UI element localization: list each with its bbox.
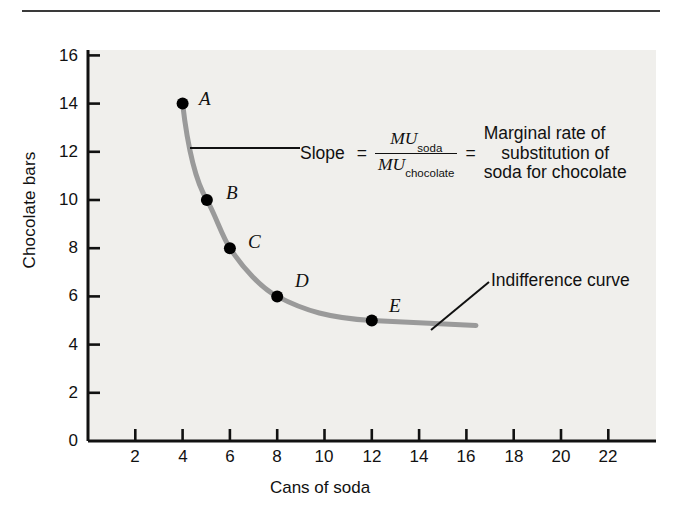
data-point-a bbox=[177, 98, 189, 110]
mu-denominator-subscript: chocolate bbox=[405, 167, 454, 179]
y-tick-label-4: 4 bbox=[48, 335, 78, 355]
x-axis-title: Cans of soda bbox=[190, 478, 450, 498]
fraction-numerator: MUsoda bbox=[387, 129, 445, 151]
mu-numerator-symbol: MU bbox=[390, 128, 417, 148]
y-tick-label-14: 14 bbox=[48, 94, 78, 114]
x-tick-label-12: 12 bbox=[357, 447, 387, 467]
slope-equals-second: = bbox=[465, 143, 475, 164]
mu-denominator-symbol: MU bbox=[378, 154, 405, 174]
fraction-denominator: MUchocolate bbox=[375, 155, 457, 177]
point-label-c: C bbox=[248, 231, 261, 253]
x-tick-label-14: 14 bbox=[404, 447, 434, 467]
x-tick-label-22: 22 bbox=[593, 447, 623, 467]
mrs-line-1: Marginal rate of bbox=[484, 124, 627, 144]
mrs-line-2: substitution of bbox=[484, 144, 627, 164]
y-tick-label-10: 10 bbox=[48, 190, 78, 210]
point-label-e: E bbox=[389, 295, 401, 317]
data-point-b bbox=[201, 194, 213, 206]
y-axis-title: Chocolate bars bbox=[20, 120, 40, 300]
slope-equals-first: = bbox=[357, 143, 367, 164]
point-label-a: A bbox=[199, 88, 211, 110]
y-tick-label-12: 12 bbox=[48, 142, 78, 162]
x-tick-label-16: 16 bbox=[451, 447, 481, 467]
plot-svg bbox=[0, 0, 694, 519]
x-axis-ticks bbox=[135, 429, 608, 441]
indifference-curve-label: Indifference curve bbox=[491, 270, 630, 291]
x-tick-label-18: 18 bbox=[499, 447, 529, 467]
slope-formula-annotation: Slope = MUsoda MUchocolate = Marginal ra… bbox=[300, 124, 627, 183]
x-tick-label-20: 20 bbox=[546, 447, 576, 467]
y-tick-label-16: 16 bbox=[48, 46, 78, 66]
data-point-d bbox=[271, 290, 283, 302]
point-label-b: B bbox=[226, 182, 238, 204]
figure-container: 16 14 12 10 8 6 4 2 0 2 4 6 8 10 12 14 1… bbox=[0, 0, 694, 519]
data-point-c bbox=[224, 242, 236, 254]
x-tick-label-10: 10 bbox=[309, 447, 339, 467]
y-tick-label-2: 2 bbox=[48, 383, 78, 403]
x-tick-label-6: 6 bbox=[215, 447, 245, 467]
x-tick-label-2: 2 bbox=[120, 447, 150, 467]
mu-numerator-subscript: soda bbox=[417, 142, 442, 154]
data-point-e bbox=[366, 315, 378, 327]
mrs-description: Marginal rate of substitution of soda fo… bbox=[484, 124, 627, 183]
point-label-d: D bbox=[295, 270, 309, 292]
y-tick-label-0: 0 bbox=[48, 431, 78, 451]
y-axis-ticks bbox=[88, 55, 100, 392]
x-tick-label-8: 8 bbox=[262, 447, 292, 467]
mrs-line-3: soda for chocolate bbox=[484, 163, 627, 183]
y-tick-label-8: 8 bbox=[48, 238, 78, 258]
y-tick-label-6: 6 bbox=[48, 286, 78, 306]
x-tick-label-4: 4 bbox=[168, 447, 198, 467]
mu-ratio-fraction: MUsoda MUchocolate bbox=[375, 129, 457, 177]
slope-word: Slope bbox=[300, 143, 345, 164]
